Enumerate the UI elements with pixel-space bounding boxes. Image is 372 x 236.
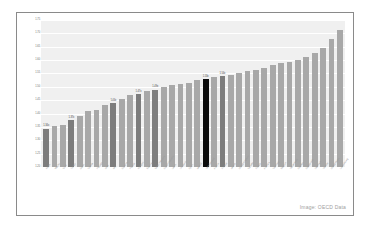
bar-column: 1.37x (67, 20, 75, 167)
bar (287, 62, 293, 167)
x-axis-tick: Luxembourg (336, 167, 344, 207)
y-axis-tick-label: 1.55 (35, 72, 40, 75)
bar (320, 48, 326, 167)
y-axis-tick-label: 1.65 (35, 45, 40, 48)
bar-value-label: 1.34x (43, 125, 49, 128)
y-axis-tick-label: 1.75 (35, 19, 40, 22)
x-axis-tick: Norway (319, 167, 327, 207)
bar-column (285, 20, 293, 167)
bar (178, 84, 184, 167)
bar-column (319, 20, 327, 167)
bar (52, 126, 58, 167)
x-axis-tick: Australia (260, 167, 268, 207)
bar-column (252, 20, 260, 167)
bar (144, 91, 150, 167)
bar-column: 1.53x (201, 20, 209, 167)
bar (119, 99, 125, 167)
x-axis-tick: France (252, 167, 260, 207)
y-axis-tick-label: 1.60 (35, 59, 40, 62)
bar (68, 120, 74, 167)
y-axis-tick-label: 1.20 (35, 166, 40, 169)
bar-column (101, 20, 109, 167)
bar-column (59, 20, 67, 167)
bar (295, 60, 301, 167)
x-axis-tick: Ireland (227, 167, 235, 207)
bar-column (260, 20, 268, 167)
bar (303, 57, 309, 167)
bar (245, 71, 251, 167)
x-axis-tick: Portugal (92, 167, 100, 207)
bar-value-label: 1.54x (219, 73, 225, 76)
bar-column (277, 20, 285, 167)
bar-value-label: 1.44x (110, 100, 116, 103)
bar-value-label: 1.49x (152, 86, 158, 89)
bar (203, 79, 209, 167)
x-axis-tick: Denmark (311, 167, 319, 207)
bar-column (118, 20, 126, 167)
bar-column (168, 20, 176, 167)
bar (220, 76, 226, 167)
x-axis-tick: New Zealand (201, 167, 209, 207)
bar-column (50, 20, 58, 167)
bar (228, 75, 234, 167)
bar-column (143, 20, 151, 167)
bar (152, 90, 158, 168)
bar (337, 30, 343, 167)
x-axis-tick: Latvia (168, 167, 176, 207)
x-axis: KoreaMexicoChileTurkeyJapanGreecePortuga… (41, 167, 345, 207)
x-axis-tick: Lithuania (176, 167, 184, 207)
x-axis-tick: Japan (76, 167, 84, 207)
x-axis-tick: Estonia (143, 167, 151, 207)
bar (329, 39, 335, 167)
bar-value-label: 1.47x (136, 91, 142, 94)
bar-column (227, 20, 235, 167)
source-credit: Image: OECD Data (300, 204, 346, 210)
x-axis-tick: Switzerland (302, 167, 310, 207)
bar (43, 129, 49, 167)
x-axis-tick: Mexico (50, 167, 58, 207)
bar-column (126, 20, 134, 167)
bar-column (193, 20, 201, 167)
bar (261, 68, 267, 167)
bar-column (243, 20, 251, 167)
bar (60, 125, 66, 167)
bar (85, 111, 91, 167)
x-axis-tick: Germany (269, 167, 277, 207)
x-axis-tick: Israel (101, 167, 109, 207)
bar-column (269, 20, 277, 167)
y-axis-tick-label: 1.50 (35, 86, 40, 89)
x-axis-tick: Slovak Republic (159, 167, 167, 207)
plot-area: 1.34x1.37x1.44x1.47x1.49x1.53x1.54x (41, 20, 345, 167)
y-axis-tick-label: 1.40 (35, 112, 40, 115)
bar (211, 77, 217, 167)
chart-frame: 1.751.701.651.601.551.501.451.401.351.30… (16, 12, 354, 216)
x-axis-tick: United States (327, 167, 335, 207)
x-axis-tick: Czech Republic (151, 167, 159, 207)
bar (278, 63, 284, 167)
bar-column (327, 20, 335, 167)
bar-value-label: 1.53x (203, 76, 209, 79)
bar (236, 73, 242, 167)
x-axis-tick: Hungary (134, 167, 142, 207)
bar (253, 70, 259, 167)
x-axis-tick: Greece (84, 167, 92, 207)
y-axis-tick-label: 1.30 (35, 139, 40, 142)
y-axis-tick-label: 1.45 (35, 99, 40, 102)
bar (312, 53, 318, 167)
x-axis-tick: Finland (218, 167, 226, 207)
bar-column (294, 20, 302, 167)
bar (102, 105, 108, 167)
bar-series: 1.34x1.37x1.44x1.47x1.49x1.53x1.54x (41, 20, 345, 167)
x-axis-tick: Turkey (67, 167, 75, 207)
bar (110, 103, 116, 167)
x-axis-tick: Iceland (193, 167, 201, 207)
bar-column: 1.49x (151, 20, 159, 167)
bar (77, 116, 83, 167)
x-axis-tick: Belgium (277, 167, 285, 207)
x-axis-tick: Korea (42, 167, 50, 207)
bar-column: 1.44x (109, 20, 117, 167)
x-axis-tick: Slovenia (118, 167, 126, 207)
y-axis-tick-label: 1.25 (35, 152, 40, 155)
bar-column (336, 20, 344, 167)
bar-column (76, 20, 84, 167)
